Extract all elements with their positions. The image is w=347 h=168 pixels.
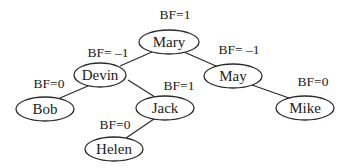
balance-factor-label: BF= –1 <box>218 42 259 57</box>
node-label: Helen <box>96 141 132 157</box>
balance-factor-label: BF= –1 <box>87 45 128 60</box>
node-mary: MaryBF=1 <box>139 7 199 54</box>
edge-may-mike <box>252 85 289 98</box>
balance-factor-label: BF=1 <box>160 7 191 22</box>
node-bob: BobBF=0 <box>16 76 74 121</box>
balance-factor-label: BF=1 <box>164 78 195 93</box>
tree-nodes: MaryBF=1DevinBF= –1MayBF= –1BobBF=0JackB… <box>16 7 334 161</box>
node-label: Mary <box>153 34 186 50</box>
node-label: May <box>219 68 247 84</box>
node-label: Devin <box>82 67 119 83</box>
balance-factor-label: BF=0 <box>34 76 65 91</box>
edge-devin-jack <box>128 80 155 97</box>
node-label: Bob <box>32 101 57 117</box>
edge-mary-may <box>184 52 216 66</box>
node-label: Jack <box>152 100 179 116</box>
node-jack: JackBF=1 <box>136 78 194 120</box>
avl-tree-diagram: MaryBF=1DevinBF= –1MayBF= –1BobBF=0JackB… <box>0 0 347 168</box>
balance-factor-label: BF=0 <box>298 74 329 89</box>
node-helen: HelenBF=0 <box>85 117 143 161</box>
balance-factor-label: BF=0 <box>100 117 131 132</box>
node-label: Mike <box>289 100 321 116</box>
